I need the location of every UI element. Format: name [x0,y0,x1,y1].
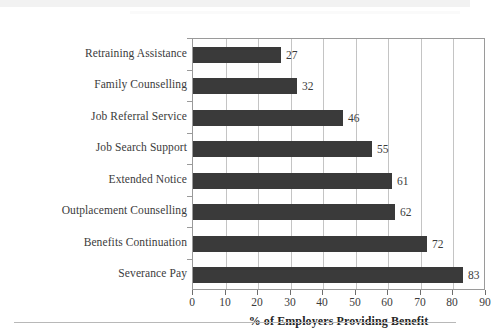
bar [193,173,392,189]
bar [193,236,427,252]
category-axis-labels: Retraining AssistanceFamily CounsellingJ… [40,38,187,290]
category-label: Retraining Assistance [40,47,187,59]
bar-value-label: 46 [348,110,360,126]
x-axis-tick-mark [420,290,421,295]
category-axis-tick [187,164,192,165]
scan-artifact-band-top [0,0,470,7]
x-axis-tick-label: 70 [405,296,435,308]
x-axis-tick-label: 10 [210,296,240,308]
category-axis-tick [187,70,192,71]
x-axis-tick-label: 50 [340,296,370,308]
x-axis-tick-labels: 0102030405060708090 [192,296,485,312]
bar-value-label: 83 [468,267,480,283]
x-axis-tick-label: 0 [177,296,207,308]
category-label: Benefits Continuation [40,236,187,248]
bar-value-label: 55 [377,141,389,157]
bar-value-label: 32 [302,78,314,94]
x-axis-tick-mark [355,290,356,295]
plot-area: 2732465561627283 [192,38,485,290]
bar [193,141,372,157]
horizontal-bar-chart: Retraining AssistanceFamily CounsellingJ… [40,16,495,336]
bar [193,47,281,63]
x-axis-tick-mark [485,290,486,295]
page-divider-rule [14,322,456,323]
scan-artifact-band-secondary [130,11,460,14]
bar [193,267,463,283]
category-axis-tick [187,101,192,102]
bar [193,204,395,220]
x-axis-tick-label: 20 [242,296,272,308]
bar-value-label: 61 [397,173,409,189]
x-axis-tick-mark [257,290,258,295]
category-axis-tick [187,227,192,228]
category-axis-tick [187,196,192,197]
x-axis-tick-label: 80 [437,296,467,308]
x-axis-tick-mark [192,290,193,295]
bar [193,110,343,126]
x-axis-tick-label: 60 [372,296,402,308]
category-axis-tick [187,259,192,260]
category-axis-tick [187,38,192,39]
bar-value-label: 72 [432,236,444,252]
bar-value-label: 62 [400,204,412,220]
category-label: Extended Notice [40,173,187,185]
x-axis-tick-label: 30 [275,296,305,308]
x-axis-tick-mark [322,290,323,295]
x-axis-tick-mark [387,290,388,295]
category-label: Job Referral Service [40,110,187,122]
category-label: Job Search Support [40,141,187,153]
x-axis-tick-mark [225,290,226,295]
category-label: Family Counselling [40,78,187,90]
category-label: Severance Pay [40,267,187,279]
bar-value-label: 27 [286,47,298,63]
x-axis-tick-label: 40 [307,296,337,308]
x-axis-tick-label: 90 [470,296,495,308]
x-axis-tick-mark [452,290,453,295]
category-axis-tick [187,133,192,134]
bars-layer: 2732465561627283 [193,39,484,289]
bar [193,78,297,94]
category-label: Outplacement Counselling [40,204,187,216]
x-axis-tick-mark [290,290,291,295]
